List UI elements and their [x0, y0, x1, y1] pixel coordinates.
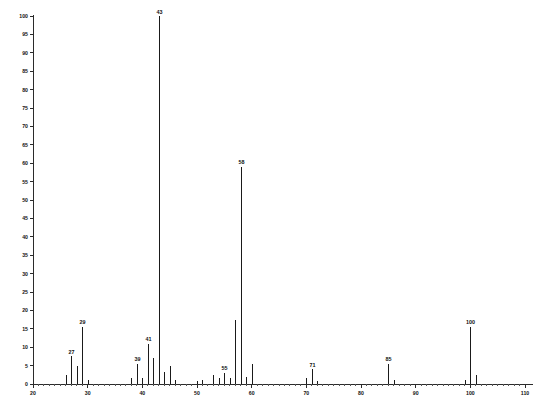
peak-label: 41	[146, 336, 152, 342]
y-axis-tick-label: 80	[22, 87, 28, 93]
y-axis-tick-label: 95	[22, 31, 28, 37]
x-axis-tick-label: 50	[194, 390, 200, 396]
peak-label: 100	[466, 319, 475, 325]
y-axis-tick-label: 35	[22, 252, 28, 258]
y-axis-tick-label: 0	[25, 381, 28, 387]
peak-label: 71	[310, 362, 316, 368]
peak-label: 85	[386, 356, 392, 362]
x-axis-tick-label: 100	[466, 390, 475, 396]
y-axis-tick-label: 50	[22, 197, 28, 203]
x-axis-tick-label: 80	[358, 390, 364, 396]
x-axis-tick-label: 70	[303, 390, 309, 396]
x-axis-tick-label: 90	[413, 390, 419, 396]
peak-label: 58	[239, 159, 245, 165]
peak-label: 39	[135, 356, 141, 362]
peak-labels: 272939414355587185100	[69, 9, 476, 372]
peak-series	[67, 16, 477, 384]
x-axis: 2030405060708090100110	[30, 384, 533, 396]
x-axis-tick-label: 40	[139, 390, 145, 396]
y-axis: 0510152025303540455055606570758085909510…	[19, 13, 33, 387]
x-axis-tick-label: 60	[249, 390, 255, 396]
x-axis-tick-label: 30	[85, 390, 91, 396]
mass-spectrum-figure: 0510152025303540455055606570758085909510…	[0, 0, 537, 415]
peak-label: 55	[222, 365, 228, 371]
y-axis-tick-label: 30	[22, 271, 28, 277]
x-axis-tick-label: 20	[30, 390, 36, 396]
y-axis-tick-label: 20	[22, 307, 28, 313]
peak-label: 27	[69, 349, 75, 355]
y-axis-tick-label: 15	[22, 326, 28, 332]
y-axis-tick-label: 100	[19, 13, 28, 19]
y-axis-tick-label: 45	[22, 215, 28, 221]
peak-label: 29	[80, 319, 86, 325]
y-axis-tick-label: 5	[25, 363, 28, 369]
y-axis-tick-label: 90	[22, 50, 28, 56]
x-axis-tick-label: 110	[521, 390, 529, 396]
spectrum-plot-area: 0510152025303540455055606570758085909510…	[0, 0, 537, 415]
y-axis-tick-label: 85	[22, 68, 28, 74]
y-axis-tick-label: 25	[22, 289, 28, 295]
peak-label: 43	[157, 9, 163, 15]
y-axis-tick-label: 65	[22, 142, 28, 148]
y-axis-tick-label: 55	[22, 179, 28, 185]
y-axis-tick-label: 60	[22, 160, 28, 166]
y-axis-tick-label: 75	[22, 105, 28, 111]
y-axis-tick-label: 10	[22, 344, 28, 350]
y-axis-tick-label: 70	[22, 123, 28, 129]
y-axis-tick-label: 40	[22, 234, 28, 240]
